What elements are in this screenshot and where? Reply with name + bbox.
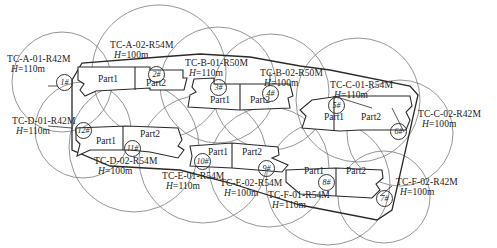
building-c-part1: Part1 bbox=[324, 112, 344, 122]
building-a-part2: Part2 bbox=[146, 78, 166, 88]
crane-layout-drawing: TC-A-01-R42M H=110m TC-A-02-R54M H=100m … bbox=[0, 0, 497, 248]
crane-height: H=100m bbox=[220, 188, 282, 198]
crane-height: H=110m bbox=[268, 200, 330, 210]
crane-code: TC-A-02-R54M bbox=[110, 40, 173, 50]
crane-height: H=110m bbox=[162, 181, 224, 191]
crane-height: H=110m bbox=[7, 64, 70, 74]
crane-code: TC-C-02-R42M bbox=[418, 109, 481, 119]
crane-label-3: TC-B-01-R50M H=110m bbox=[185, 58, 248, 78]
crane-marker-11: 11# bbox=[124, 140, 141, 157]
crane-label-11: TC-D-02-R54M H=100m bbox=[94, 156, 157, 176]
crane-code: TC-B-01-R50M bbox=[185, 58, 248, 68]
crane-code: TC-F-02-R42M bbox=[396, 177, 458, 187]
building-e-part1: Part1 bbox=[208, 147, 228, 157]
crane-code: TC-D-01-R42M bbox=[12, 116, 75, 126]
crane-marker-8: 8# bbox=[318, 174, 335, 191]
crane-label-12: TC-D-01-R42M H=110m bbox=[12, 116, 75, 136]
crane-height: H=100m bbox=[418, 119, 481, 129]
building-a bbox=[78, 67, 187, 96]
crane-marker-7: 7# bbox=[376, 190, 393, 207]
crane-height: H=110m bbox=[12, 126, 75, 136]
crane-code: TC-B-02-R50M bbox=[260, 68, 323, 78]
crane-label-2: TC-A-02-R54M H=100m bbox=[110, 40, 173, 60]
crane-marker-3: 3# bbox=[210, 79, 227, 96]
crane-height: H=100m bbox=[396, 187, 458, 197]
crane-height: H=110m bbox=[185, 68, 248, 78]
crane-label-10: TC-E-01-R54M H=110m bbox=[162, 171, 224, 191]
building-d-part1: Part1 bbox=[96, 136, 116, 146]
crane-marker-9: 9# bbox=[258, 160, 275, 177]
building-d-part2: Part2 bbox=[140, 129, 160, 139]
building-c-part2: Part2 bbox=[361, 112, 381, 122]
building-b-part1: Part1 bbox=[210, 95, 230, 105]
building-a-part1: Part1 bbox=[98, 74, 118, 84]
crane-code: TC-C-01-R54M bbox=[330, 80, 393, 90]
crane-label-6: TC-C-02-R42M H=100m bbox=[418, 109, 481, 129]
crane-label-9: TC-E-02-R54M H=100m bbox=[220, 178, 282, 198]
crane-label-1: TC-A-01-R42M H=110m bbox=[7, 54, 70, 74]
building-f-part2: Part2 bbox=[346, 166, 366, 176]
crane-code: TC-A-01-R42M bbox=[7, 54, 70, 64]
crane-height: H=100m bbox=[110, 50, 173, 60]
crane-code: TC-E-01-R54M bbox=[162, 171, 224, 181]
crane-label-7: TC-F-02-R42M H=100m bbox=[396, 177, 458, 197]
crane-code: TC-D-02-R54M bbox=[94, 156, 157, 166]
crane-marker-6: 6# bbox=[390, 123, 407, 140]
crane-height: H=100m bbox=[94, 166, 157, 176]
crane-marker-1: 1# bbox=[56, 74, 73, 91]
crane-marker-12: 12# bbox=[75, 122, 92, 139]
building-e-part2: Part2 bbox=[242, 147, 262, 157]
building-f-part1: Part1 bbox=[304, 166, 324, 176]
crane-code: TC-E-02-R54M bbox=[220, 178, 282, 188]
building-b-part2: Part2 bbox=[250, 95, 270, 105]
